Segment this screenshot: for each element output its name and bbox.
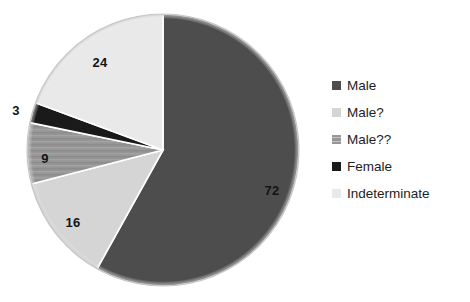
pie-value-label: 9 [41,152,48,165]
legend-item-label: Female [347,160,392,174]
legend-item-maleqq[interactable]: Male?? [332,126,470,153]
legend-item-female[interactable]: Female [332,153,470,180]
pie-value-label: 24 [93,56,108,69]
pie-value-label: 72 [265,184,280,197]
pie-plot-area: 72169324 [0,0,330,302]
legend-item-male[interactable]: Male [332,72,470,99]
pie-slices-group [27,14,299,286]
legend-item-label: Male [347,79,376,93]
pie-value-label: 3 [12,104,19,117]
legend-item-label: Male? [347,106,384,120]
legend-item-indeterminate[interactable]: Indeterminate [332,180,470,207]
legend-item-label: Indeterminate [347,187,430,201]
pie-value-label: 16 [66,216,81,229]
solid-swatch-icon [332,108,341,117]
legend-item-label: Male?? [347,133,391,147]
pie-chart-figure: 72169324 MaleMale?Male??FemaleIndetermin… [0,0,470,302]
solid-swatch-icon [332,81,341,90]
striped-swatch-icon [332,135,341,144]
pie-svg [0,0,330,302]
solid-swatch-icon [332,162,341,171]
solid-swatch-icon [332,189,341,198]
legend-item-maleq[interactable]: Male? [332,99,470,126]
chart-legend: MaleMale?Male??FemaleIndeterminate [332,72,470,207]
